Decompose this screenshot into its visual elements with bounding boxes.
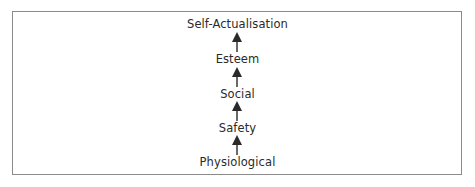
level-social: Social	[0, 87, 475, 101]
level-safety: Safety	[0, 121, 475, 135]
level-self-actualisation: Self-Actualisation	[0, 17, 475, 31]
arrow-up-icon	[231, 135, 243, 155]
level-esteem: Esteem	[0, 52, 475, 66]
arrow-up-icon	[231, 32, 243, 52]
arrow-up-icon	[231, 67, 243, 87]
level-physiological: Physiological	[0, 155, 475, 169]
arrow-up-icon	[231, 101, 243, 121]
